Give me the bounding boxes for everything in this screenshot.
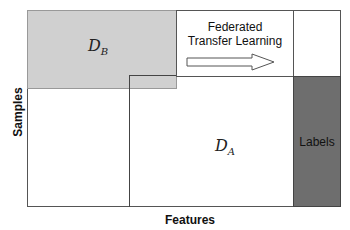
db-letter: D xyxy=(88,36,101,55)
dataset-b-label: DB xyxy=(88,36,108,57)
ftl-line2: Transfer Learning xyxy=(176,34,294,48)
labels-text: Labels xyxy=(299,135,334,149)
db-subscript: B xyxy=(101,46,108,57)
right-arrow-icon xyxy=(186,53,276,71)
ftl-caption: Federated Transfer Learning xyxy=(176,20,294,48)
empty-label-cell xyxy=(293,10,341,77)
x-axis-label: Features xyxy=(0,213,350,227)
da-subscript: A xyxy=(228,146,235,157)
dataset-a-label: DA xyxy=(215,136,235,157)
y-axis-label: Samples xyxy=(11,82,25,142)
ftl-line1: Federated xyxy=(176,20,294,34)
labels-block: Labels xyxy=(293,76,341,207)
da-letter: D xyxy=(215,136,228,155)
